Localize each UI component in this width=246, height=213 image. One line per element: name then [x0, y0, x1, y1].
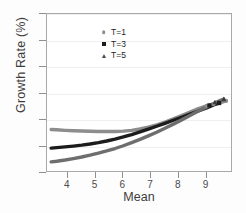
legend-label: T=5: [111, 51, 126, 60]
legend-item-t5: T=5: [99, 51, 126, 60]
y-axis-tick: [39, 93, 46, 94]
series-curves: [47, 14, 232, 172]
x-axis-label: 7: [142, 179, 158, 190]
legend-label: T=1: [111, 28, 126, 37]
chart-root: Growth Rate (%) 051015202530 T=1T=3T=5 4…: [0, 0, 246, 213]
x-axis-tick: [67, 172, 68, 178]
x-axis-label: 8: [170, 179, 186, 190]
triangle-marker-icon: [99, 52, 108, 60]
plot-area: T=1T=3T=5: [46, 13, 232, 172]
y-axis-tick: [39, 66, 46, 67]
x-axis-title: Mean: [46, 190, 232, 204]
data-point-marker: [217, 101, 221, 105]
legend-item-t3: T=3: [99, 40, 126, 49]
x-axis-tick: [178, 172, 179, 178]
y-axis-tick: [39, 172, 46, 173]
y-axis-tick: [39, 146, 46, 147]
x-axis-label: 6: [114, 179, 130, 190]
x-axis-tick: [122, 172, 123, 178]
x-axis-tick: [206, 172, 207, 178]
legend-item-t1: T=1: [99, 28, 126, 37]
x-axis-tick: [150, 172, 151, 178]
x-axis-label: 5: [87, 179, 103, 190]
circle-marker-icon: [99, 28, 108, 36]
x-axis-tick: [95, 172, 96, 178]
x-axis-label: 4: [59, 179, 75, 190]
data-point-marker: [207, 103, 211, 107]
legend: T=1T=3T=5: [99, 28, 126, 63]
y-axis-title: Growth Rate (%): [14, 0, 28, 130]
y-axis-tick: [39, 40, 46, 41]
y-axis-tick: [39, 13, 46, 14]
square-marker-icon: [99, 40, 108, 48]
x-axis-label: 9: [198, 179, 214, 190]
y-axis-tick: [39, 119, 46, 120]
series-line-t1: [51, 101, 226, 132]
legend-label: T=3: [111, 40, 126, 49]
